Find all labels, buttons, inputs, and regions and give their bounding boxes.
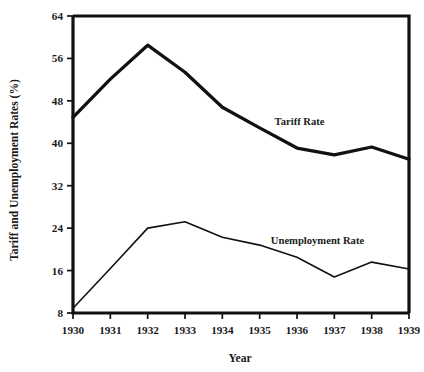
- series-label-unemployment-rate: Unemployment Rate: [271, 235, 365, 246]
- x-tick-label: 1935: [248, 324, 271, 336]
- line-chart: 816243240485664 193019311932193319341935…: [0, 0, 424, 372]
- chart-container: 816243240485664 193019311932193319341935…: [0, 0, 424, 372]
- series-label-tariff-rate: Tariff Rate: [275, 116, 325, 127]
- axis-frame-left-bottom: [73, 16, 409, 313]
- y-tick-label: 24: [52, 222, 64, 234]
- x-axis-title: Year: [228, 352, 251, 365]
- x-tick-label: 1939: [398, 324, 421, 336]
- y-tick-label: 40: [52, 137, 64, 149]
- x-tick-label: 1931: [99, 324, 122, 336]
- x-tick-label: 1938: [360, 324, 383, 336]
- series-paths: [73, 45, 409, 308]
- x-tick-label: 1930: [62, 324, 85, 336]
- y-tick-label: 56: [52, 52, 64, 64]
- x-tick-label: 1936: [286, 324, 309, 336]
- y-axis-tick-labels: 816243240485664: [52, 10, 64, 319]
- series-annotations: Tariff RateUnemployment Rate: [271, 116, 365, 246]
- y-axis-title: Tariff and Unemployment Rates (%): [8, 79, 21, 261]
- x-tick-label: 1932: [136, 324, 159, 336]
- y-tick-label: 32: [52, 180, 64, 192]
- series-line-tariff-rate: [73, 45, 409, 159]
- x-tick-label: 1934: [211, 324, 234, 336]
- plot-frame: [73, 16, 409, 313]
- y-tick-label: 48: [52, 95, 64, 107]
- axis-frame-top-right: [73, 16, 409, 313]
- y-tick-label: 8: [57, 307, 63, 319]
- x-tick-label: 1933: [174, 324, 197, 336]
- y-tick-label: 64: [52, 10, 64, 22]
- x-axis-tick-labels: 1930193119321933193419351936193719381939: [62, 324, 421, 336]
- x-tick-label: 1937: [323, 324, 346, 336]
- y-tick-label: 16: [52, 265, 64, 277]
